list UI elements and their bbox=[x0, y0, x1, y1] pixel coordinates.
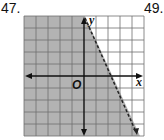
inequality-graph: y x O bbox=[0, 0, 164, 140]
origin-label: O bbox=[72, 78, 82, 92]
x-axis-label: x bbox=[135, 75, 142, 89]
y-axis-label: y bbox=[87, 13, 95, 27]
